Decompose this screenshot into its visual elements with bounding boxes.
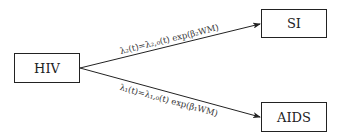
node-hiv-label: HIV xyxy=(34,61,60,76)
node-si: SI xyxy=(261,9,327,38)
node-si-label: SI xyxy=(287,16,301,31)
arrow-hiv-aids xyxy=(80,68,260,117)
transition-diagram: λ₂(t)=λ₂,₀(t) exp(β₂WM) λ₁(t)=λ₁,₀(t) ex… xyxy=(0,0,342,140)
edge-hiv-to-aids: λ₁(t)=λ₁,₀(t) exp(β₁WM) xyxy=(80,68,260,118)
edge-hiv-to-si: λ₂(t)=λ₂,₀(t) exp(β₂WM) xyxy=(80,22,260,68)
node-aids-label: AIDS xyxy=(277,110,311,125)
node-aids: AIDS xyxy=(261,102,327,132)
node-hiv: HIV xyxy=(14,53,80,83)
arrow-hiv-si xyxy=(80,24,260,68)
edge-label-hazard-si: λ₂(t)=λ₂,₀(t) exp(β₂WM) xyxy=(119,22,220,56)
edge-label-hazard-aids: λ₁(t)=λ₁,₀(t) exp(β₁WM) xyxy=(119,82,219,118)
